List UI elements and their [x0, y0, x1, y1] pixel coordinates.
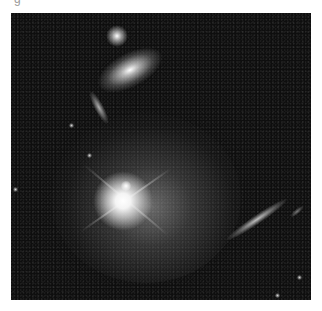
bright-knot	[121, 181, 131, 191]
astronomical-image	[11, 13, 311, 300]
point-source	[87, 153, 92, 158]
point-source	[297, 275, 302, 280]
point-source	[69, 123, 74, 128]
compact-source	[106, 25, 128, 47]
caption-fragment: g	[14, 0, 21, 5]
point-source	[13, 187, 18, 192]
bright-galaxy-core	[93, 171, 153, 231]
point-source	[275, 293, 280, 298]
